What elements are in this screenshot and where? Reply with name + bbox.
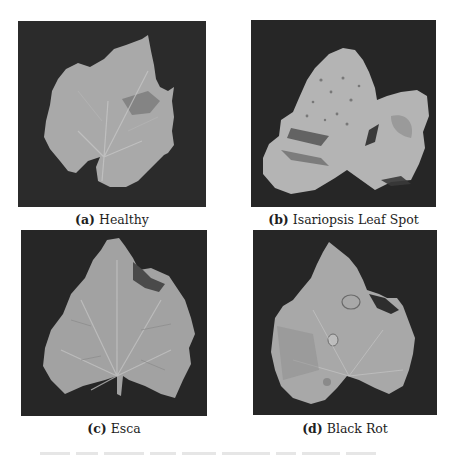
caption-isariopsis-leaf-spot: (b)Isariopsis Leaf Spot — [251, 212, 436, 227]
caption-label: (b) — [268, 212, 289, 227]
esca-leaf-image — [21, 230, 207, 416]
figure-panel-healthy — [18, 21, 206, 207]
isariopsis-leaf-image — [251, 20, 436, 207]
caption-label: (c) — [87, 421, 106, 436]
caption-healthy: (a)Healthy — [18, 212, 206, 227]
caption-label: (a) — [75, 212, 95, 227]
black-rot-leaf-image — [253, 230, 437, 415]
caption-title: Isariopsis Leaf Spot — [293, 212, 419, 227]
caption-title: Esca — [111, 421, 141, 436]
figure-panel-black-rot — [253, 230, 437, 415]
healthy-leaf-image — [18, 21, 206, 207]
caption-title: Healthy — [99, 212, 149, 227]
caption-esca: (c)Esca — [21, 421, 207, 436]
caption-label: (d) — [302, 421, 323, 436]
caption-title: Black Rot — [327, 421, 388, 436]
figure-panel-isariopsis-leaf-spot — [251, 20, 436, 207]
figure-panel-esca — [21, 230, 207, 416]
figure-caption-cutoff — [40, 452, 420, 458]
caption-black-rot: (d)Black Rot — [253, 421, 437, 436]
